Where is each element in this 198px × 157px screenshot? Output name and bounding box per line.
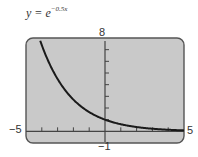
ymin-label: −1: [98, 140, 111, 152]
xmin-label: −5: [9, 123, 22, 135]
ymax-label: 8: [99, 26, 105, 38]
xmax-label: 5: [187, 124, 193, 136]
graph-screen: [0, 0, 198, 157]
